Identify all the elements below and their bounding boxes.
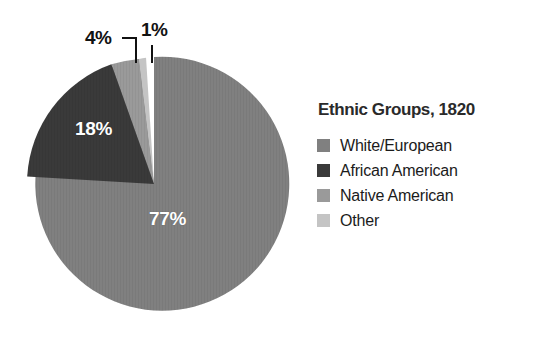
legend-item-white-european: White/European [317, 133, 532, 158]
legend-swatch-icon-other [317, 214, 330, 227]
callout-leader-native-american [122, 38, 136, 63]
legend-label-african-american: African American [340, 163, 458, 179]
legend-label-other: Other [340, 213, 379, 229]
pie-chart-figure: 77% 18% 4% 1% Ethnic Groups, 1820 White/… [0, 0, 536, 343]
chart-title: Ethnic Groups, 1820 [318, 100, 532, 120]
legend-swatch-icon-white-european [317, 139, 330, 152]
pie-value-label-native-american: 4% [85, 27, 111, 49]
legend-label-native-american: Native American [340, 188, 454, 204]
pie-value-label-white-european: 77% [149, 208, 186, 230]
pie-chart-svg [0, 0, 310, 343]
legend-label-white-european: White/European [340, 138, 452, 154]
chart-legend: Ethnic Groups, 1820 White/European Afric… [317, 100, 532, 233]
legend-swatch-icon-native-american [317, 189, 330, 202]
pie-value-label-other: 1% [141, 19, 167, 41]
legend-item-other: Other [317, 208, 532, 233]
pie-chart-plot-area: 77% 18% 4% 1% [0, 0, 310, 343]
pie-value-label-african-american: 18% [75, 118, 112, 140]
legend-swatch-icon-african-american [317, 164, 330, 177]
legend-item-native-american: Native American [317, 183, 532, 208]
legend-item-african-american: African American [317, 158, 532, 183]
